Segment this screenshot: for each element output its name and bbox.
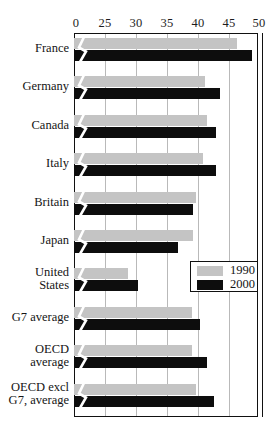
x-tick-35: 35 xyxy=(155,16,179,30)
category-label-germany: Germany xyxy=(0,80,69,93)
category-label-oecd-average: OECDaverage xyxy=(0,343,69,369)
category-label-canada: Canada xyxy=(0,119,69,132)
x-tick-45: 45 xyxy=(217,16,241,30)
bar-canada-2000 xyxy=(74,127,216,138)
bar-g7-average-2000 xyxy=(74,319,200,330)
bar-japan-2000 xyxy=(74,242,178,253)
bar-oecd-average-1990 xyxy=(74,345,192,356)
category-label-italy: Italy xyxy=(0,157,69,170)
bar-oecd-average-2000 xyxy=(74,357,207,368)
x-axis-tick-labels: 0 25 30 35 40 45 50 xyxy=(0,16,277,32)
bar-chart: 0 25 30 35 40 45 50 FranceGermanyCanadaI… xyxy=(0,0,277,426)
bar-britain-2000 xyxy=(74,204,193,215)
bar-united-states-2000 xyxy=(74,280,138,291)
legend-label-2000: 2000 xyxy=(230,277,255,291)
gridline-45 xyxy=(229,34,230,416)
x-tick-25: 25 xyxy=(93,16,117,30)
legend-swatch-1990-icon xyxy=(197,266,223,276)
legend: 1990 2000 xyxy=(190,261,258,292)
bar-germany-2000 xyxy=(74,88,220,99)
category-label-oecd-excl-g7-average: OECD exclG7, average xyxy=(0,381,69,407)
x-tick-30: 30 xyxy=(124,16,148,30)
legend-swatch-2000-icon xyxy=(197,280,223,290)
bar-united-states-1990 xyxy=(74,268,128,279)
legend-label-1990: 1990 xyxy=(230,263,255,277)
bar-canada-1990 xyxy=(74,115,207,126)
outer-border-rule xyxy=(262,33,263,417)
bar-britain-1990 xyxy=(74,192,196,203)
bar-italy-1990 xyxy=(74,153,203,164)
category-label-japan: Japan xyxy=(0,234,69,247)
bar-oecd-excl-g7-average-2000 xyxy=(74,396,214,407)
bar-oecd-excl-g7-average-1990 xyxy=(74,384,196,395)
bar-france-1990 xyxy=(74,38,237,49)
bar-italy-2000 xyxy=(74,165,216,176)
category-label-britain: Britain xyxy=(0,196,69,209)
x-tick-0: 0 xyxy=(64,16,88,30)
bar-japan-1990 xyxy=(74,230,193,241)
category-label-france: France xyxy=(0,42,69,55)
category-label-g7-average: G7 average xyxy=(0,311,69,324)
category-label-united-states: UnitedStates xyxy=(0,266,69,292)
x-tick-50: 50 xyxy=(247,16,271,30)
bar-g7-average-1990 xyxy=(74,307,192,318)
bar-france-2000 xyxy=(74,50,252,61)
x-tick-40: 40 xyxy=(186,16,210,30)
bar-germany-1990 xyxy=(74,76,205,87)
